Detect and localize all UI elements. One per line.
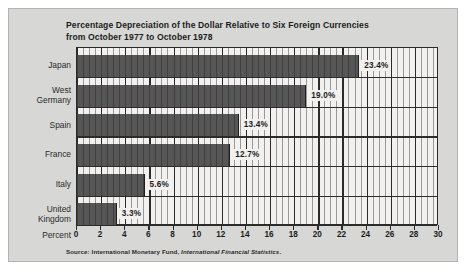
- source-prefix: Source: International Monetary Fund,: [66, 248, 181, 255]
- x-tick-label: 4: [122, 230, 127, 239]
- category-label-united-kingdom: UnitedKingdom: [3, 204, 71, 224]
- category-label-line: Italy: [56, 179, 71, 189]
- source-publication: International Financial Statistics: [181, 248, 279, 255]
- x-tick-label: 12: [216, 230, 225, 239]
- chart-figure: Percentage Depreciation of the Dollar Re…: [8, 8, 458, 262]
- x-tick-label: 8: [170, 230, 175, 239]
- chart-title-line-1: Percentage Depreciation of the Dollar Re…: [66, 20, 446, 32]
- plot-area: 23.4%19.0%13.4%12.7%5.6%3.3%: [76, 47, 438, 225]
- category-label-line: Kingdom: [38, 214, 71, 224]
- value-label-japan: 23.4%: [361, 60, 390, 71]
- x-tick-label: 14: [240, 230, 249, 239]
- bar-japan: [77, 55, 359, 78]
- bar-gridline-overlay: [77, 55, 358, 78]
- x-axis: 024681012141618202224262830: [76, 225, 438, 243]
- bar-united-kingdom: [77, 203, 117, 226]
- category-label-line: France: [45, 149, 71, 159]
- bar-italy: [77, 174, 145, 197]
- category-label-line: West: [52, 85, 71, 95]
- value-label-west-germany: 19.0%: [308, 90, 337, 101]
- bar-spain: [77, 114, 239, 137]
- x-tick-label: 24: [361, 230, 370, 239]
- bar-gridline-overlay: [77, 174, 144, 197]
- value-label-italy: 5.6%: [147, 179, 171, 190]
- category-label-line: United: [47, 204, 71, 214]
- x-axis-label: Percent: [17, 230, 71, 240]
- x-tick-label: 2: [98, 230, 103, 239]
- category-label-line: Spain: [50, 120, 71, 130]
- chart-title-line-2: from October 1977 to October 1978: [66, 32, 446, 44]
- x-tick-label: 28: [409, 230, 418, 239]
- bar-gridline-overlay: [77, 144, 229, 167]
- bar-gridline-overlay: [77, 203, 116, 226]
- category-label-italy: Italy: [3, 179, 71, 189]
- value-label-france: 12.7%: [232, 149, 261, 160]
- x-tick-label: 20: [313, 230, 322, 239]
- bar-gridline-overlay: [77, 114, 238, 137]
- chart-title: Percentage Depreciation of the Dollar Re…: [66, 20, 446, 43]
- bar-west-germany: [77, 85, 306, 108]
- x-tick-label: 0: [74, 230, 79, 239]
- category-label-line: Japan: [48, 60, 71, 70]
- x-tick-label: 26: [385, 230, 394, 239]
- x-tick-label: 18: [289, 230, 298, 239]
- value-label-united-kingdom: 3.3%: [119, 208, 143, 219]
- x-tick-label: 10: [192, 230, 201, 239]
- x-tick-label: 6: [146, 230, 151, 239]
- category-label-west-germany: WestGermany: [3, 85, 71, 105]
- bar-gridline-overlay: [77, 85, 305, 108]
- x-tick-label: 16: [265, 230, 274, 239]
- category-axis-labels: JapanWestGermanySpainFranceItalyUnitedKi…: [9, 47, 71, 225]
- category-label-line: Germany: [37, 95, 71, 105]
- bar-france: [77, 144, 230, 167]
- x-tick-label: 22: [337, 230, 346, 239]
- x-tick-label: 30: [433, 230, 442, 239]
- source-suffix: .: [279, 248, 281, 255]
- source-note: Source: International Monetary Fund, Int…: [66, 248, 281, 255]
- category-label-france: France: [3, 149, 71, 159]
- category-label-japan: Japan: [3, 60, 71, 70]
- category-label-spain: Spain: [3, 120, 71, 130]
- value-label-spain: 13.4%: [241, 119, 270, 130]
